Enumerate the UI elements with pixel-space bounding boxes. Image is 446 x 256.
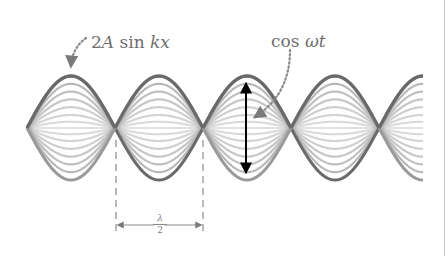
standing-wave-diagram: 2A sin kx cos ωt λ2 [0,0,446,256]
half-wavelength-label: λ2 [153,214,167,235]
envelope-inner-curves [27,84,423,172]
time-factor-label: cos ωt [271,33,326,50]
amplitude-label: 2A sin kx [91,34,170,51]
wave-plot [0,0,446,256]
amplitude-pointer-icon [71,38,86,66]
frame-border [444,0,445,256]
